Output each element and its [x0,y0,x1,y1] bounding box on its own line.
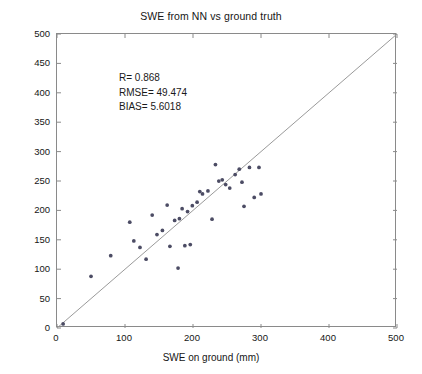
y-tick-label: 150 [10,233,50,244]
scatter-point [168,244,172,248]
scatter-point [132,239,136,243]
figure-canvas: SWE from NN vs ground truth R= 0.868 RMS… [0,0,422,374]
scatter-point [183,244,187,248]
scatter-point [190,204,194,208]
y-tick-label: 0 [10,322,50,333]
scatter-point [214,163,218,167]
scatter-point [180,207,184,211]
stats-annotation: R= 0.868 RMSE= 49.474 BIAS= 5.6018 [119,71,187,115]
stat-rmse: RMSE= 49.474 [119,86,187,101]
x-axis-title: SWE on ground (mm) [0,352,422,363]
scatter-point [89,274,93,278]
y-tick-label: 350 [10,116,50,127]
scatter-point [210,217,214,221]
scatter-point [161,229,165,233]
scatter-point [252,196,256,200]
y-tick-label: 300 [10,145,50,156]
scatter-point [237,167,241,171]
scatter-points [61,163,263,326]
one-to-one-line [57,34,397,328]
y-tick-label: 200 [10,204,50,215]
x-tick-label: 500 [388,332,404,343]
scatter-point [165,203,169,207]
x-tick-label: 400 [320,332,336,343]
plot-area[interactable]: R= 0.868 RMSE= 49.474 BIAS= 5.6018 [56,33,396,327]
stat-bias: BIAS= 5.6018 [119,100,187,115]
scatter-point [224,183,228,187]
x-tick-label: 0 [53,332,58,343]
scatter-point [186,210,190,214]
x-tick-label: 100 [116,332,132,343]
scatter-point [233,173,237,177]
scatter-point [228,186,232,190]
y-tick-label: 250 [10,175,50,186]
y-tick-label: 50 [10,292,50,303]
scatter-point [220,178,224,182]
x-tick-label: 300 [252,332,268,343]
scatter-point [144,257,148,261]
x-tick-label: 200 [184,332,200,343]
scatter-point [188,243,192,247]
scatter-point [109,254,113,258]
scatter-point [242,204,246,208]
scatter-point [217,179,221,183]
scatter-point [248,166,252,170]
y-tick-label: 400 [10,86,50,97]
scatter-point [138,246,142,250]
scatter-point [176,266,180,270]
scatter-point [128,220,132,224]
scatter-point [195,200,199,204]
plot-svg [57,34,397,328]
scatter-point [206,189,210,193]
scatter-point [155,233,159,237]
scatter-point [61,322,65,326]
y-tick-label: 450 [10,57,50,68]
y-tick-label: 500 [10,28,50,39]
scatter-point [178,217,182,221]
scatter-point [173,219,177,223]
scatter-point [240,180,244,184]
y-tick-label: 100 [10,263,50,274]
scatter-point [150,213,154,217]
stat-r: R= 0.868 [119,71,187,86]
scatter-point [259,192,263,196]
scatter-point [201,192,205,196]
scatter-point [257,166,261,170]
chart-title: SWE from NN vs ground truth [0,10,422,22]
